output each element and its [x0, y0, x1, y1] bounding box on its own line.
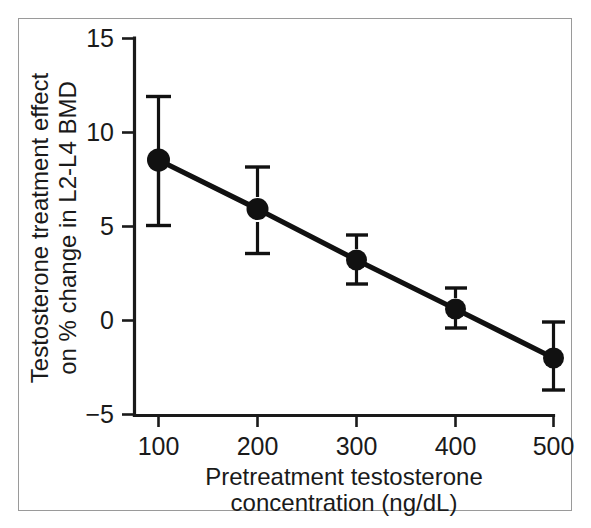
x-tick-label-300: 300	[336, 432, 378, 460]
x-axis-title-line-2: concentration (ng/dL)	[231, 489, 458, 516]
y-axis-title-line-1: Testosterone treatment effect	[26, 72, 53, 383]
y-tick-label-0: 0	[100, 306, 114, 334]
y-tick-marks	[122, 39, 134, 415]
y-tick-label-15: 15	[86, 24, 114, 52]
y-tick-labels: 15 10 5 0 −5	[85, 24, 114, 428]
y-tick-label-minus-5: −5	[85, 400, 114, 428]
error-bars-group	[146, 97, 565, 391]
y-tick-label-5: 5	[100, 212, 114, 240]
x-tick-label-100: 100	[138, 432, 180, 460]
x-tick-label-500: 500	[533, 432, 575, 460]
data-point-100[interactable]	[147, 149, 170, 172]
data-markers-group	[147, 149, 564, 369]
figure-root: 15 10 5 0 −5 100 200 300 400 500 Pretrea…	[0, 0, 591, 528]
y-axis-title-line-2: on % change in L2-L4 BMD	[54, 81, 81, 375]
data-point-500[interactable]	[543, 348, 564, 369]
data-point-400[interactable]	[445, 299, 466, 320]
chart-canvas: 15 10 5 0 −5 100 200 300 400 500 Pretrea…	[0, 0, 591, 528]
axes-group	[135, 38, 554, 416]
x-tick-labels: 100 200 300 400 500	[138, 432, 575, 460]
x-tick-label-400: 400	[435, 432, 477, 460]
x-axis-title-line-1: Pretreatment testosterone	[205, 463, 482, 490]
x-tick-label-200: 200	[237, 432, 279, 460]
data-point-300[interactable]	[346, 250, 367, 271]
x-axis-title: Pretreatment testosterone concentration …	[205, 463, 482, 516]
data-point-200[interactable]	[247, 198, 269, 220]
y-axis-title: Testosterone treatment effect on % chang…	[26, 72, 81, 383]
y-tick-label-10: 10	[86, 118, 114, 146]
